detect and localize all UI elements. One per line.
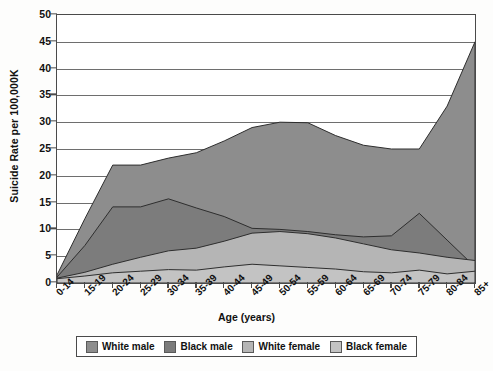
y-axis-title: Suicide Rate per 100,000K xyxy=(8,36,20,236)
chart-container: Suicide Rate per 100,000K 05101520253035… xyxy=(0,0,493,371)
area-series-group xyxy=(57,15,475,283)
y-axis-tick-label: 50 xyxy=(25,8,51,20)
legend-label: White female xyxy=(258,341,320,352)
legend-item: Black male xyxy=(164,341,232,353)
y-axis-tick-label: 0 xyxy=(25,276,51,288)
y-axis-tick-label: 10 xyxy=(25,222,51,234)
legend-label: White male xyxy=(102,341,155,352)
y-axis-tick-label: 20 xyxy=(25,169,51,181)
legend-swatch xyxy=(164,341,176,353)
y-axis-tick-label: 30 xyxy=(25,115,51,127)
legend-item: White female xyxy=(242,341,320,353)
plot-area xyxy=(56,14,476,284)
y-axis-tick-label: 25 xyxy=(25,142,51,154)
legend-swatch xyxy=(242,341,254,353)
x-axis-title: Age (years) xyxy=(0,311,493,323)
chart-legend: White maleBlack maleWhite femaleBlack fe… xyxy=(76,336,417,357)
legend-item: White male xyxy=(86,341,155,353)
legend-swatch xyxy=(330,341,342,353)
y-axis-tick-label: 15 xyxy=(25,196,51,208)
y-axis-tick-label: 40 xyxy=(25,62,51,74)
legend-label: Black male xyxy=(180,341,232,352)
y-axis-tick-label: 5 xyxy=(25,249,51,261)
y-axis-tick-label: 35 xyxy=(25,88,51,100)
legend-item: Black female xyxy=(330,341,407,353)
y-axis-tick-label: 45 xyxy=(25,35,51,47)
legend-swatch xyxy=(86,341,98,353)
legend-label: Black female xyxy=(346,341,407,352)
